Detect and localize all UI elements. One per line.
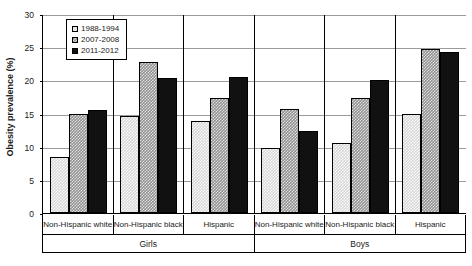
bar <box>69 114 88 214</box>
x-axis-category-label: Non-Hispanic black <box>325 215 396 235</box>
y-tick-label: 5 <box>0 177 34 185</box>
x-axis-group-label: Boys <box>255 235 467 253</box>
legend-item: 2011-2012 <box>72 45 119 56</box>
x-axis-group-label: Girls <box>42 235 255 253</box>
bar <box>120 116 139 213</box>
bar <box>402 114 421 214</box>
legend-label-1: 1988-1994 <box>81 25 119 33</box>
bar <box>139 62 158 213</box>
bar <box>299 131 318 213</box>
bar <box>191 121 210 213</box>
x-axis-category-label: Hispanic <box>396 215 467 235</box>
legend-swatch-1988-1994-icon <box>72 26 78 32</box>
bar <box>50 157 69 213</box>
bar <box>440 52 459 213</box>
bar <box>261 148 280 213</box>
legend: 1988-1994 2007-2008 2011-2012 <box>66 19 127 60</box>
x-axis-category-labels: Non-Hispanic whiteNon-Hispanic blackHisp… <box>42 215 466 235</box>
x-axis-category-label: Non-Hispanic white <box>255 215 326 235</box>
legend-swatch-2007-2008-icon <box>72 37 78 43</box>
y-tick-label: 0 <box>0 210 34 218</box>
y-tick-label: 20 <box>0 77 34 85</box>
bar-group <box>255 15 326 213</box>
legend-item: 1988-1994 <box>72 23 119 34</box>
y-tick-label: 10 <box>0 144 34 152</box>
x-axis-category-label: Non-Hispanic white <box>42 215 114 235</box>
legend-label-2: 2007-2008 <box>81 36 119 44</box>
bar-group <box>396 15 467 213</box>
bar-chart: Obesity prevalence (%) 051015202530 1988… <box>0 0 472 266</box>
y-tick-label: 15 <box>0 111 34 119</box>
bar <box>332 143 351 213</box>
bar <box>88 110 107 213</box>
x-axis-category-label: Hispanic <box>184 215 255 235</box>
bar <box>210 98 229 213</box>
x-axis-category-label: Non-Hispanic black <box>114 215 185 235</box>
bar <box>158 78 177 213</box>
bar <box>280 109 299 213</box>
legend-item: 2007-2008 <box>72 34 119 45</box>
y-axis-title-text: Obesity prevalence (%) <box>5 57 15 156</box>
bar <box>229 77 248 213</box>
legend-label-3: 2011-2012 <box>81 47 119 55</box>
bar <box>351 98 370 213</box>
y-tick-label: 25 <box>0 44 34 52</box>
legend-swatch-2011-2012-icon <box>72 48 78 54</box>
bar-group <box>325 15 396 213</box>
x-axis-group-labels: GirlsBoys <box>42 235 466 253</box>
bar-group <box>184 15 255 213</box>
bar <box>421 49 440 213</box>
bar <box>370 80 389 213</box>
y-tick-label: 30 <box>0 11 34 19</box>
